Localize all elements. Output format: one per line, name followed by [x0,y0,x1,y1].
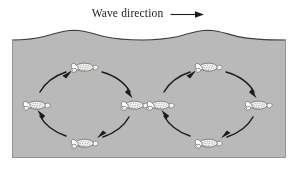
figure-caption: Wave direction [92,8,164,20]
wave-panel [12,26,286,158]
right-arrow-icon [170,9,206,20]
caption-row: Wave direction [0,6,298,22]
water-body [12,30,286,158]
wave-diagram [12,26,286,158]
wave-orbital-motion-figure: Wave direction [0,0,298,173]
